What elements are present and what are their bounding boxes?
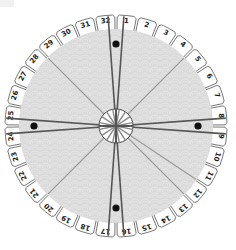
marker-dot	[194, 122, 201, 129]
numbered-wheel-diagram: 1234567891011121314151617181920212223242…	[0, 0, 236, 250]
marker-dot	[112, 204, 119, 211]
center-hub	[99, 109, 133, 143]
marker-dot	[30, 122, 37, 129]
marker-dot	[112, 40, 119, 47]
